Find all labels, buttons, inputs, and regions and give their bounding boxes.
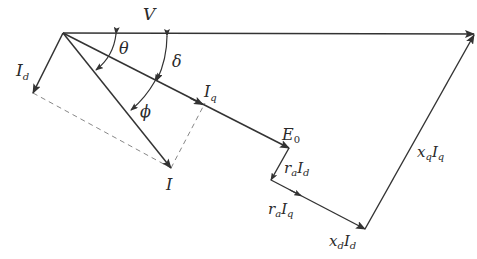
label-delta: δ <box>172 52 182 71</box>
label-ra-iq: raIq <box>268 200 293 219</box>
delta-arc <box>157 36 167 80</box>
label-iq: Iq <box>203 82 217 103</box>
label-xq-iq: xqIq <box>417 143 444 162</box>
label-ra-id: raId <box>284 159 309 178</box>
label-id: Id <box>15 60 29 82</box>
phasor-e0 <box>63 33 289 148</box>
phasor-v <box>63 33 474 34</box>
label-xd-id: xdId <box>329 232 356 251</box>
phasor-ra-iq-arrow <box>290 190 301 196</box>
phasor-id <box>33 33 63 93</box>
phasor-diagram: V Id θ δ ϕ Iq E0 I raId raIq xdId xqIq <box>0 0 477 259</box>
label-e0: E0 <box>281 125 300 145</box>
label-phi: ϕ <box>140 102 151 121</box>
dashed-projection-iq <box>171 103 205 168</box>
phasor-xq-iq <box>365 35 474 229</box>
label-i: I <box>165 175 173 194</box>
phasor-iq-arrow <box>190 98 203 105</box>
label-v: V <box>143 4 157 24</box>
label-theta: θ <box>119 39 129 58</box>
phasor-i <box>63 33 171 168</box>
